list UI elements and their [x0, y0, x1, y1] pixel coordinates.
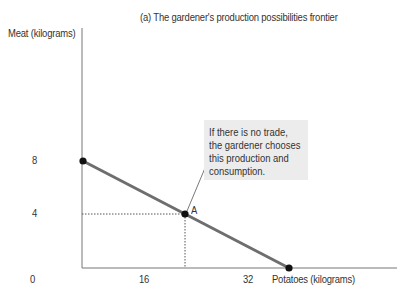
point-a-label: A [191, 204, 197, 216]
annotation-callout: If there is no trade, the gardener choos… [204, 120, 308, 180]
x-axis-label: Potatoes (kilograms) [272, 273, 355, 285]
y-tick-4: 4 [32, 207, 37, 219]
x-tick-32: 32 [243, 273, 253, 285]
annotation-text: If there is no trade, the gardener choos… [209, 126, 300, 178]
y-axis-label: Meat (kilograms) [8, 27, 75, 39]
point-y-intercept [79, 157, 86, 164]
y-tick-8: 8 [32, 154, 37, 166]
x-tick-16: 16 [139, 273, 149, 285]
x-tick-0: 0 [30, 273, 35, 285]
point-x-intercept [285, 264, 292, 271]
chart-title: (a) The gardener's production possibilit… [140, 11, 338, 23]
point-a [181, 210, 188, 217]
